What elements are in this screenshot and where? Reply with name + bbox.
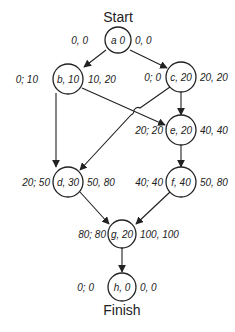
node-g-right-values: 100, 100 (140, 229, 179, 240)
node-b-left-values: 0; 10 (16, 74, 39, 85)
node-e: e, 20 20; 20 40, 40 (134, 115, 228, 145)
node-h-right-values: 0, 0 (140, 282, 157, 293)
node-g-label: g, 20 (111, 229, 134, 240)
node-h: h, 0 0; 0 0, 0 (77, 273, 157, 301)
node-d-label: d, 30 (57, 177, 80, 188)
finish-label: Finish (103, 302, 140, 318)
node-c-label: c, 20 (170, 72, 192, 83)
edge-b-e (82, 88, 165, 125)
edge-f-g (136, 192, 170, 224)
node-e-right-values: 40, 40 (200, 125, 228, 136)
start-label: Start (103, 9, 133, 25)
node-d: d, 30 20; 50 50, 80 (21, 167, 115, 197)
node-c: c, 20 0; 0 20, 20 (144, 62, 228, 92)
node-f-label: f, 40 (171, 177, 191, 188)
node-b: b, 10 0; 10 10, 20 (16, 64, 116, 94)
network-diagram: Start Finish a 0 0, 0 0, 0 b, 10 0; 10 1… (0, 0, 235, 332)
node-a: a 0 0, 0 0, 0 (71, 27, 152, 53)
node-f: f, 40 40; 40 50, 80 (135, 167, 228, 197)
node-h-left-values: 0; 0 (77, 282, 94, 293)
node-a-right-values: 0, 0 (135, 35, 152, 46)
node-f-right-values: 50, 80 (200, 177, 228, 188)
node-g: g, 20 80; 80 100, 100 (78, 220, 179, 248)
node-c-right-values: 20, 20 (199, 72, 228, 83)
node-a-label: a 0 (111, 35, 125, 46)
node-b-right-values: 10, 20 (88, 74, 116, 85)
edge-a-c (130, 50, 167, 68)
node-f-left-values: 40; 40 (135, 177, 163, 188)
edge-a-b (84, 50, 106, 67)
node-e-label: e, 20 (170, 125, 193, 136)
node-a-left-values: 0, 0 (71, 35, 88, 46)
node-d-right-values: 50, 80 (87, 177, 115, 188)
node-c-left-values: 0; 0 (144, 72, 161, 83)
edge-d-g (80, 192, 109, 224)
node-e-left-values: 20; 20 (134, 125, 163, 136)
node-b-label: b, 10 (57, 74, 80, 85)
node-g-left-values: 80; 80 (78, 229, 106, 240)
node-h-label: h, 0 (114, 282, 131, 293)
node-d-left-values: 20; 50 (21, 177, 50, 188)
